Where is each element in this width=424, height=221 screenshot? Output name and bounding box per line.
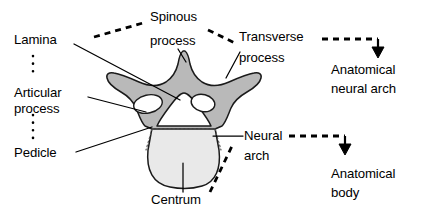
leader-pedicle bbox=[76, 127, 152, 152]
label-centrum: Centrum bbox=[151, 192, 201, 208]
label-anatomical-body-line1: Anatomical bbox=[331, 166, 395, 182]
label-articular-process-line2: process bbox=[14, 101, 59, 117]
dash-spinous-to-transverse bbox=[208, 30, 235, 43]
label-neural-arch-line1: Neural bbox=[244, 128, 282, 144]
label-pedicle: Pedicle bbox=[14, 145, 57, 161]
label-lamina: Lamina bbox=[14, 32, 57, 48]
arrowhead-anatomical-neural-arch bbox=[372, 47, 384, 58]
label-articular-process-line1: Articular bbox=[14, 85, 61, 101]
label-spinous-process-line2: process bbox=[150, 33, 195, 49]
label-anatomical-neural-arch-line2: neural arch bbox=[331, 81, 396, 97]
label-neural-arch-line2: arch bbox=[244, 148, 269, 164]
label-transverse-process-line2: process bbox=[239, 50, 284, 66]
vertebra-diagram-figure: Lamina Articular process Pedicle Spinous… bbox=[0, 0, 424, 221]
label-transverse-process-line1: Transverse bbox=[239, 29, 303, 45]
arrowhead-anatomical-body bbox=[339, 144, 351, 155]
label-anatomical-neural-arch-line1: Anatomical bbox=[331, 62, 395, 78]
dash-left-to-spinous bbox=[94, 23, 143, 37]
leader-transverse-process bbox=[226, 52, 240, 78]
label-spinous-process-line1: Spinous bbox=[150, 9, 197, 25]
diagram-canvas bbox=[0, 0, 424, 221]
vertebra-illustration bbox=[107, 51, 261, 188]
label-anatomical-body-line2: body bbox=[331, 185, 359, 201]
dashed-connectors-body bbox=[210, 136, 351, 192]
